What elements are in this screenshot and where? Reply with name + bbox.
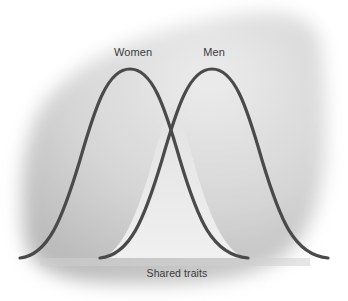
women-label: Women <box>114 46 152 58</box>
distribution-diagram <box>0 0 348 301</box>
baseline-band <box>40 258 310 266</box>
shared-traits-label: Shared traits <box>147 267 208 279</box>
diagram-stage: Women Men Shared traits <box>0 0 348 301</box>
men-label: Men <box>203 46 225 58</box>
